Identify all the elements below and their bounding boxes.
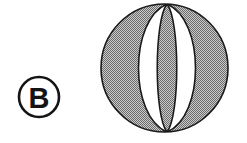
figure-svg: B [0, 0, 247, 143]
label-letter-b: B [29, 82, 50, 114]
figure-canvas: B [0, 0, 247, 143]
circled-label-b: B [19, 77, 59, 117]
sphere-group [101, 4, 228, 132]
